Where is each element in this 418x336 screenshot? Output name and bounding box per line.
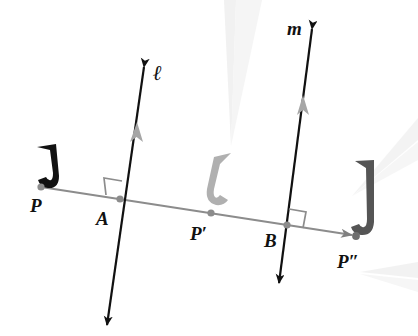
shape-reflected-j <box>207 153 231 205</box>
label-point-a: A <box>96 209 109 228</box>
label-line-m: m <box>287 19 302 38</box>
geometry-diagram-canvas: P A P′ B P″ ℓ m <box>0 0 418 336</box>
label-point-p: P <box>30 196 42 215</box>
label-line-l: ℓ <box>153 63 162 84</box>
dot-a <box>116 195 123 202</box>
label-point-p-prime: P′ <box>190 224 207 243</box>
dot-p <box>37 183 44 190</box>
shape-original-j <box>37 144 59 188</box>
shape-double-reflected-j <box>351 160 374 235</box>
geometry-figure-svg <box>0 0 418 336</box>
right-angle-mark-a <box>104 178 122 195</box>
label-point-b: B <box>264 231 277 250</box>
dot-p-double-prime <box>352 232 360 240</box>
dot-b <box>283 221 290 228</box>
scan-artifacts <box>224 0 418 292</box>
line-m-direction-mark <box>297 95 309 115</box>
line-m <box>279 29 312 283</box>
line-l <box>107 67 144 325</box>
label-point-p-double-prime: P″ <box>337 252 359 271</box>
line-l-direction-mark <box>130 122 143 142</box>
dot-p-prime <box>207 209 214 216</box>
